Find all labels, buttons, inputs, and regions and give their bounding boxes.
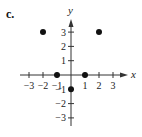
x-axis-label: x [130,68,136,80]
x-tick-label: 1 [83,80,88,91]
x-axis: x [20,68,136,80]
y-tick-label: 2 [61,41,66,52]
x-axis-arrow-icon [120,73,128,78]
y-axis: y [67,4,74,126]
x-tick-label: −2 [38,80,49,91]
x-tick-label: −3 [24,80,35,91]
y-tick-label: −1 [55,84,66,95]
data-point [40,29,46,35]
y-tick-label: −2 [55,98,66,109]
y-axis-label: y [67,4,73,16]
y-tick-label: 1 [61,55,66,66]
y-axis-arrow-icon [69,19,74,27]
x-tick-label: 3 [111,80,116,91]
data-point [96,29,102,35]
data-point [54,72,60,78]
data-point [82,72,88,78]
scatter-plot: c. x y −3−2−1123 321−1−2−3 [0,0,142,137]
y-tick-label: −3 [55,112,66,123]
panel-label: c. [6,7,14,21]
y-tick-label: 3 [61,27,66,38]
data-point [68,86,74,92]
x-tick-label: 2 [97,80,102,91]
